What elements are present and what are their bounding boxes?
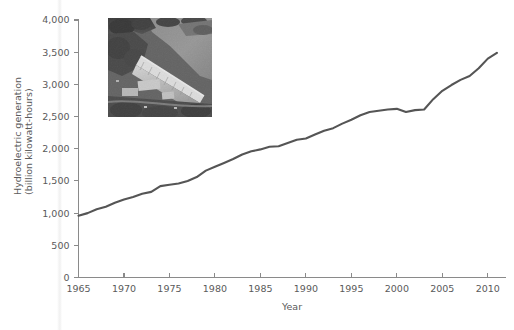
y-tick-label: 1,000 <box>42 208 69 219</box>
y-tick-label: 2,500 <box>42 111 69 122</box>
x-tick-label: 2005 <box>430 283 454 294</box>
y-tick-label: 2,000 <box>42 143 69 154</box>
y-tick-label: 4,000 <box>42 14 69 25</box>
x-tick-label: 1980 <box>203 283 227 294</box>
x-axis-ticks: 1965197019751980198519901995200020052010 <box>66 273 499 294</box>
x-tick-label: 1985 <box>248 283 272 294</box>
x-tick-label: 1975 <box>157 283 181 294</box>
x-tick-label: 2000 <box>385 283 409 294</box>
x-tick-label: 2010 <box>476 283 500 294</box>
y-axis-title-line1: Hydroelectric generation <box>12 77 23 195</box>
y-tick-label: 3,000 <box>42 79 69 90</box>
x-tick-label: 1970 <box>112 283 136 294</box>
y-tick-label: 500 <box>51 240 69 251</box>
y-axis-title-line2: (billion kilowatt-hours) <box>23 88 34 195</box>
y-tick-label: 0 <box>63 272 69 283</box>
line-chart-plot: Hydroelectric generation (billion kilowa… <box>0 0 514 330</box>
y-tick-label: 3,500 <box>42 47 69 58</box>
x-axis-title: Year <box>281 301 302 312</box>
y-axis-ticks: 05001,0001,5002,0002,5003,0003,5004,000 <box>42 14 78 283</box>
chart-figure: Hydroelectric generation (billion kilowa… <box>0 0 514 330</box>
y-tick-label: 1,500 <box>42 175 69 186</box>
x-tick-label: 1995 <box>339 283 363 294</box>
x-tick-label: 1965 <box>66 283 90 294</box>
y-axis-title: Hydroelectric generation (billion kilowa… <box>12 77 34 195</box>
data-series-line <box>79 53 497 216</box>
x-tick-label: 1990 <box>294 283 318 294</box>
